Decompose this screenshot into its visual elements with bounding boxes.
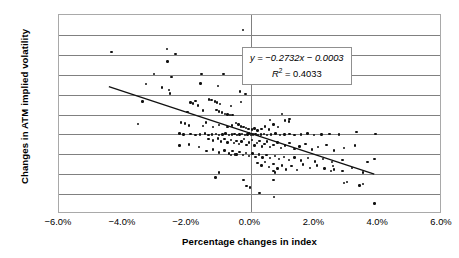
x-tick-label: 2.0%	[283, 216, 343, 227]
r-squared-value: = 0.4033	[285, 68, 322, 79]
regression-annotation-box: y = −0.2732x − 0.0003 R2 = 0.4033	[242, 47, 352, 85]
r-squared-symbol: R	[272, 68, 279, 79]
scatter-chart: Changes in ATM implied volatility 3.0%2.…	[0, 0, 459, 258]
x-tick-label: 4.0%	[347, 216, 407, 227]
x-axis-title: Percentage changes in index	[58, 236, 441, 247]
y-axis-title: Changes in ATM implied volatility	[19, 7, 30, 207]
x-tick-label: 6.0%	[411, 216, 459, 227]
x-tick-label: −4.0%	[92, 216, 152, 227]
x-tick-label: 0.0%	[220, 216, 280, 227]
regression-equation: y = −0.2732x − 0.0003	[250, 51, 344, 64]
plot-area	[58, 14, 441, 213]
r-squared-line: R2 = 0.4033	[250, 64, 344, 80]
x-tick-label: −2.0%	[156, 216, 216, 227]
x-tick-label: −6.0%	[28, 216, 88, 227]
trendline	[59, 15, 440, 212]
